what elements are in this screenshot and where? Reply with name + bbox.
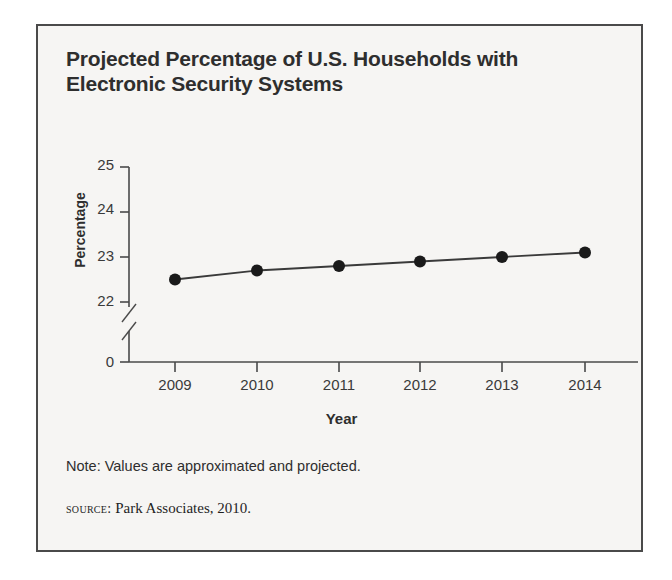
data-point-2010: [251, 265, 263, 277]
data-point-2011: [333, 260, 345, 272]
data-point-2013: [496, 251, 508, 263]
data-series-line: [175, 253, 585, 280]
data-series-markers: [169, 247, 591, 286]
figure-frame: Projected Percentage of U.S. Households …: [36, 24, 643, 552]
figure-note: Note: Values are approximated and projec…: [66, 458, 361, 474]
chart-svg: [38, 26, 645, 426]
figure-source: source: Park Associates, 2010.: [66, 500, 251, 517]
x-axis-title: Year: [38, 410, 645, 427]
source-text: Park Associates, 2010.: [115, 500, 251, 516]
chart-plot-area: Percentage 25 24 23 22 0 2009 2010 2011 …: [38, 26, 645, 554]
data-point-2009: [169, 274, 181, 286]
data-point-2014: [579, 247, 591, 259]
data-point-2012: [414, 256, 426, 268]
source-prefix: source:: [66, 501, 111, 516]
